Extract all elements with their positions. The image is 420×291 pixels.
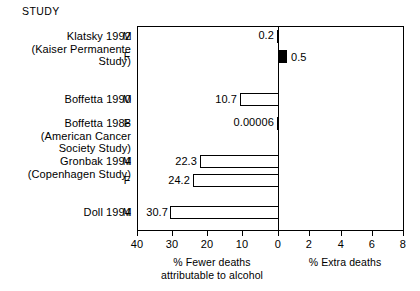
axis-tick-label-2: 2 xyxy=(296,238,322,250)
study-label-boffetta-1990: Boffetta 1990 xyxy=(0,93,131,106)
study-label-klatsky-1992: Klatsky 1992 (Kaiser Permanente Study) xyxy=(0,30,131,68)
axis-tick-30 xyxy=(172,231,173,236)
bar-chart: STUDY Klatsky 1992 (Kaiser Permanente St… xyxy=(0,0,420,291)
bar-value-boffetta1988-f: 0.00006 xyxy=(203,116,274,129)
study-label-line: Boffetta 1990 xyxy=(0,93,131,106)
study-label-line: Society Study) xyxy=(0,142,131,155)
bar-value-klatsky-f: 0.5 xyxy=(291,51,331,64)
sex-marker-boffetta1990-m: M xyxy=(120,93,134,105)
axis-caption-left-line1: % Fewer deaths xyxy=(147,256,277,269)
bar-gronbak-m xyxy=(200,155,279,168)
axis-tick-2 xyxy=(309,231,310,236)
sex-marker-klatsky-m: M xyxy=(120,30,134,42)
axis-caption-right-line1: % Extra deaths xyxy=(290,256,400,269)
bar-value-klatsky-m: 0.2 xyxy=(236,29,274,42)
sex-marker-gronbak-f: F xyxy=(120,174,134,186)
axis-tick-label-8: 8 xyxy=(390,238,416,250)
study-label-line: Study) xyxy=(0,55,131,68)
axis-tick-label-6: 6 xyxy=(359,238,385,250)
axis-tick-0 xyxy=(278,231,279,236)
study-column-header: STUDY xyxy=(22,5,60,17)
sex-marker-klatsky-f: F xyxy=(120,50,134,62)
study-label-gronbak-1994: Gronbak 1994 (Copenhagen Study) xyxy=(0,155,131,180)
axis-caption-left-line2: attributable to alcohol xyxy=(147,269,277,282)
axis-tick-label-30: 30 xyxy=(159,238,185,250)
bar-boffetta1988-f xyxy=(277,117,279,130)
study-label-line: Boffetta 1988 xyxy=(0,117,131,130)
study-label-line: (American Cancer xyxy=(0,130,131,143)
bar-value-doll-m: 30.7 xyxy=(138,206,168,219)
axis-caption-left: % Fewer deaths attributable to alcohol xyxy=(147,256,277,281)
study-label-line: Doll 1994 xyxy=(0,206,131,219)
bar-value-boffetta1990-m: 10.7 xyxy=(196,93,237,106)
axis-tick-label-0: 0 xyxy=(265,238,291,250)
axis-tick-6 xyxy=(372,231,373,236)
bar-klatsky-f xyxy=(278,50,287,63)
bar-boffetta1990-m xyxy=(240,93,279,106)
study-label-line: Klatsky 1992 xyxy=(0,30,131,43)
bar-doll-m xyxy=(170,206,279,219)
bar-value-gronbak-f: 24.2 xyxy=(149,174,190,187)
study-label-line: (Kaiser Permanente xyxy=(0,43,131,56)
axis-tick-label-40: 40 xyxy=(124,238,150,250)
sex-marker-doll-m: M xyxy=(120,206,134,218)
axis-caption-right: % Extra deaths xyxy=(290,256,400,269)
axis-tick-20 xyxy=(207,231,208,236)
axis-tick-label-4: 4 xyxy=(328,238,354,250)
axis-tick-label-10: 10 xyxy=(229,238,255,250)
axis-tick-40 xyxy=(137,231,138,236)
axis-tick-4 xyxy=(341,231,342,236)
axis-tick-8 xyxy=(403,231,404,236)
axis-tick-label-20: 20 xyxy=(194,238,220,250)
study-label-line: (Copenhagen Study) xyxy=(0,168,131,181)
sex-marker-gronbak-m: M xyxy=(120,155,134,167)
study-label-doll-1994: Doll 1994 xyxy=(0,206,131,219)
sex-marker-boffetta1988-f: F xyxy=(120,117,134,129)
axis-tick-10 xyxy=(242,231,243,236)
study-label-line: Gronbak 1994 xyxy=(0,155,131,168)
study-label-boffetta-1988: Boffetta 1988 (American Cancer Society S… xyxy=(0,117,131,155)
bar-value-gronbak-m: 22.3 xyxy=(156,155,197,168)
bar-klatsky-m xyxy=(277,30,279,43)
bar-gronbak-f xyxy=(193,174,279,187)
